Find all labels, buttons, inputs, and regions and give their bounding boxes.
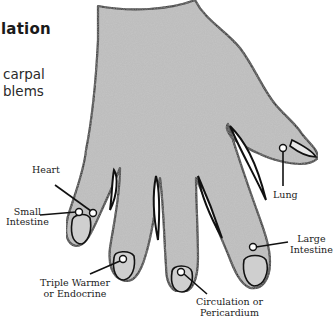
- document-page: lation carpal blems: [0, 0, 333, 319]
- point-triple-warmer: [120, 256, 127, 263]
- hand-diagram: [0, 0, 333, 319]
- label-triple-warmer: Triple Warmer or Endocrine: [40, 277, 110, 299]
- finger-gap-2: [154, 176, 159, 240]
- label-large-intestine: Large Intestine: [290, 233, 333, 255]
- label-circulation: Circulation or Pericardium: [196, 296, 263, 318]
- nail-little: [71, 215, 90, 244]
- label-lung: Lung: [273, 189, 298, 200]
- point-circulation: [178, 269, 185, 276]
- label-small-intestine: Small Intestine: [6, 207, 49, 227]
- label-heart: Heart: [32, 164, 60, 175]
- point-small-intestine: [76, 209, 83, 216]
- nail-index: [243, 256, 267, 287]
- point-large-intestine: [250, 244, 257, 251]
- point-lung: [280, 145, 287, 152]
